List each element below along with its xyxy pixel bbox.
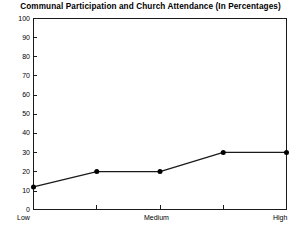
- y-tick-label-30: 30: [4, 149, 30, 156]
- data-point-markers: [31, 150, 289, 190]
- x-tick-mark-4: [223, 205, 224, 210]
- y-tick-label-60: 60: [4, 91, 30, 98]
- chart-title: Communal Participation and Church Attend…: [0, 2, 301, 11]
- y-tick-label-90: 90: [4, 34, 30, 41]
- x-tick-label-low: Low: [17, 214, 30, 222]
- x-tick-mark-low: [33, 205, 34, 210]
- x-tick-label-medium: Medium: [144, 214, 169, 222]
- x-tick-mark-high: [286, 205, 287, 210]
- x-tick-mark-medium: [160, 205, 161, 210]
- y-tick-label-100: 100: [4, 15, 30, 22]
- x-tick-label-high: High: [273, 214, 287, 222]
- data-point: [221, 150, 226, 155]
- y-axis-tick-labels: 100 90 80 70 60 50 40 30 20 10 0: [0, 0, 30, 239]
- y-tick-label-50: 50: [4, 110, 30, 117]
- y-tick-label-40: 40: [4, 129, 30, 136]
- y-tick-label-70: 70: [4, 72, 30, 79]
- y-tick-label-0: 0: [4, 206, 30, 213]
- line-chart-plot: [33, 18, 287, 210]
- chart-figure: Communal Participation and Church Attend…: [0, 0, 301, 239]
- data-point: [158, 169, 163, 174]
- y-tick-label-20: 20: [4, 168, 30, 175]
- data-point: [284, 150, 289, 155]
- y-tick-label-80: 80: [4, 53, 30, 60]
- x-tick-mark-2: [96, 205, 97, 210]
- data-point: [94, 169, 99, 174]
- data-point: [31, 184, 36, 189]
- y-tick-label-10: 10: [4, 187, 30, 194]
